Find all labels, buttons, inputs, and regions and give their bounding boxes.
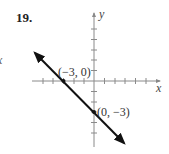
x-axis-label: x	[155, 81, 162, 95]
point-y-intercept	[92, 110, 96, 114]
graph: (−3, 0) (0, −3) x y	[0, 0, 169, 154]
point-x-intercept	[62, 79, 66, 83]
y-axis-label: y	[98, 7, 105, 21]
y-intercept-label: (0, −3)	[97, 105, 130, 119]
x-intercept-label: (−3, 0)	[58, 65, 91, 79]
